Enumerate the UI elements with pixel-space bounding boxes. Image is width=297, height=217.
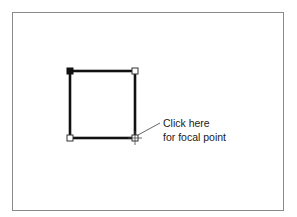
handle-top-right[interactable] (132, 68, 138, 74)
drawing-canvas[interactable] (0, 0, 297, 217)
crosshair-cursor-icon (128, 131, 142, 145)
callout-line-1: Click here (163, 116, 226, 130)
focal-point-callout: Click here for focal point (163, 116, 226, 144)
callout-line-2: for focal point (163, 130, 226, 144)
handle-top-left[interactable] (67, 68, 73, 74)
handle-bottom-left[interactable] (67, 135, 73, 141)
callout-leader-line (138, 123, 160, 135)
square-shape[interactable] (70, 71, 135, 138)
